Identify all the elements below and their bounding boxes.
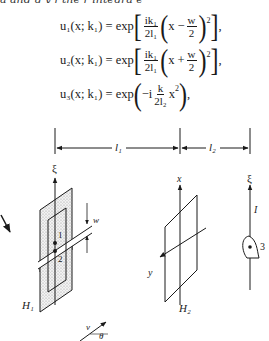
screen-h1: [38, 178, 92, 312]
detector: [243, 185, 259, 290]
l2-label: l₂: [209, 141, 216, 153]
double-slit-diagram: l₁ l₂ ξ 1 2 w H₁ v θ x y H₂: [0, 0, 269, 341]
screen2-y-label: y: [147, 267, 153, 278]
slit-1-label: 1: [58, 230, 63, 240]
velocity-label: v: [86, 322, 90, 332]
slit-1-point: [53, 241, 57, 245]
slit-width-label: w: [93, 215, 99, 225]
l1-label: l₁: [115, 141, 122, 153]
screen-h2: [160, 185, 206, 305]
incoming-arrow-icon: [1, 215, 10, 232]
screen2-x-label: x: [176, 173, 182, 184]
screen1-xi-label: ξ: [52, 162, 57, 175]
distance-dimension-lines: [55, 128, 250, 154]
detector-point: [248, 245, 252, 249]
screen-h2-label: H₂: [178, 302, 191, 314]
detector-xi-label: ξ: [247, 172, 252, 185]
slit-2-label: 2: [58, 254, 63, 264]
screen-h1-label: H₁: [21, 299, 34, 311]
slit-2-point: [53, 249, 57, 253]
angle-label: θ: [99, 331, 104, 341]
detector-point-label: 3: [260, 241, 265, 252]
detector-direction-label: I: [253, 204, 258, 215]
